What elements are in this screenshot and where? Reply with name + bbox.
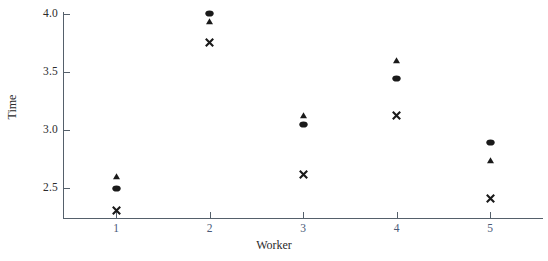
data-point-triangle bbox=[111, 171, 122, 182]
data-point-circle bbox=[111, 183, 122, 194]
data-point-x bbox=[391, 110, 402, 121]
plot-area bbox=[0, 0, 548, 261]
y-axis-title: Time bbox=[5, 83, 19, 131]
data-point-x bbox=[204, 37, 215, 48]
data-point-x bbox=[485, 193, 496, 204]
data-point-triangle bbox=[298, 110, 309, 121]
data-point-triangle bbox=[204, 16, 215, 27]
scatter-chart: 4.03.53.02.5 12345 Time Worker bbox=[0, 0, 548, 261]
data-point-triangle bbox=[485, 155, 496, 166]
x-axis-title: Worker bbox=[0, 238, 548, 252]
data-point-circle bbox=[391, 73, 402, 84]
data-point-x bbox=[298, 169, 309, 180]
data-point-x bbox=[111, 205, 122, 216]
data-point-triangle bbox=[391, 55, 402, 66]
data-point-circle bbox=[485, 137, 496, 148]
